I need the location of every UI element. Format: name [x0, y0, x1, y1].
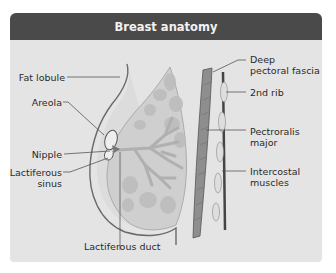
label-line-2: muscles: [250, 177, 300, 188]
label-intercostal-muscles: Intercostal muscles: [250, 166, 300, 188]
label-text: Nipple: [32, 149, 62, 160]
label-lactiferous-sinus: Lactiferous sinus: [5, 167, 62, 189]
label-nipple: Nipple: [10, 149, 62, 160]
label-line-1: Pectroralis: [250, 126, 300, 137]
label-line-2: sinus: [5, 178, 62, 189]
label-text: Areola: [32, 97, 62, 108]
ribs-intercostal: [213, 72, 228, 230]
label-pectoralis-major: Pectroralis major: [250, 126, 300, 148]
label-fat-lobule: Fat lobule: [10, 72, 65, 83]
pectoralis-major-muscle: [193, 68, 212, 238]
label-line-2: pectoral fascia: [250, 65, 320, 76]
label-text: Fat lobule: [19, 72, 65, 83]
label-line-1: Lactiferous: [5, 167, 62, 178]
label-areola: Areola: [10, 97, 62, 108]
label-text: 2nd rib: [250, 87, 284, 98]
label-line-1: Intercostal: [250, 166, 300, 177]
label-deep-pectoral-fascia: Deep pectoral fascia: [250, 54, 320, 76]
label-lactiferous-duct: Lactiferous duct: [84, 241, 160, 252]
label-line-2: major: [250, 137, 300, 148]
label-2nd-rib: 2nd rib: [250, 87, 284, 98]
label-text: Lactiferous duct: [84, 241, 160, 252]
label-line-1: Deep: [250, 54, 320, 65]
